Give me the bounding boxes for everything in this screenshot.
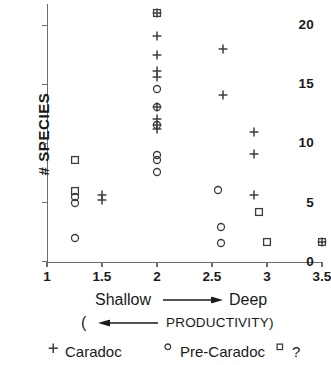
data-point-plus [152, 66, 162, 76]
x-tick-mark [46, 262, 47, 267]
chart-legend: CaradocPre-Caradoc? [0, 339, 329, 363]
data-point-plus [152, 124, 162, 134]
data-point-plus [152, 102, 162, 112]
caption-productivity: PRODUCTIVITY) [166, 316, 274, 330]
data-point-circle [153, 151, 162, 160]
data-point-square [70, 155, 79, 164]
data-point-circle [70, 192, 79, 201]
legend-marker-circle-icon [160, 343, 176, 359]
data-point-square [263, 237, 272, 246]
data-point-circle [70, 198, 79, 207]
legend-label: ? [292, 344, 300, 359]
data-point-circle [216, 223, 225, 232]
x-tick-label: 1 [43, 270, 51, 284]
arrow-right-icon [163, 296, 223, 303]
y-tick-label: 15 [299, 78, 314, 92]
data-point-plus [152, 114, 162, 124]
x-tick-label: 3 [263, 270, 271, 284]
data-point-plus [249, 190, 259, 200]
caption-shallow: Shallow [95, 292, 151, 308]
legend-item-square: ? [272, 339, 300, 363]
data-point-square [255, 207, 264, 216]
y-tick-label: 20 [299, 19, 314, 33]
data-point-plus [97, 190, 107, 200]
x-tick-label: 2 [153, 270, 161, 284]
data-point-plus [317, 237, 327, 247]
data-point-plus [152, 72, 162, 82]
data-point-circle [153, 167, 162, 176]
caption-open-paren: ( [81, 315, 86, 331]
y-tick-label: 5 [306, 196, 314, 210]
y-tick-mark [42, 84, 47, 85]
x-tick-mark [321, 262, 322, 267]
data-point-square [70, 186, 79, 195]
x-tick-label: 1.5 [93, 270, 112, 284]
data-point-plus [218, 44, 228, 54]
data-point-plus [249, 149, 259, 159]
data-point-circle [153, 85, 162, 94]
data-point-plus [152, 50, 162, 60]
data-point-circle [216, 238, 225, 247]
x-tick-label: 2.5 [203, 270, 222, 284]
data-point-square [318, 237, 327, 246]
data-point-circle [70, 233, 79, 242]
plot-area: # SPECIES 05101520 11.522.533.5 [47, 4, 322, 263]
data-point-plus [249, 127, 259, 137]
x-tick-mark [101, 262, 102, 267]
legend-item-circle: Pre-Caradoc [160, 339, 265, 363]
x-axis-line [47, 262, 322, 263]
legend-label: Caradoc [65, 344, 122, 359]
legend-item-plus: Caradoc [45, 339, 122, 363]
data-point-plus [218, 90, 228, 100]
data-point-circle [213, 185, 222, 194]
y-tick-label: 0 [306, 255, 314, 269]
y-tick-mark [42, 143, 47, 144]
caption-row-depth: Shallow Deep [0, 288, 329, 311]
y-tick-label: 10 [299, 137, 314, 151]
legend-marker-plus-icon [45, 343, 61, 359]
data-point-plus [152, 120, 162, 130]
x-tick-mark [266, 262, 267, 267]
x-tick-label: 3.5 [313, 270, 331, 284]
legend-marker-square-icon [272, 343, 288, 359]
data-point-plus [152, 31, 162, 41]
data-point-circle [153, 102, 162, 111]
x-tick-mark [156, 262, 157, 267]
legend-label: Pre-Caradoc [180, 344, 265, 359]
axis-caption: Shallow Deep ( PRODUCTIVITY) [0, 288, 329, 334]
caption-row-productivity: ( PRODUCTIVITY) [0, 311, 329, 334]
y-tick-mark [42, 202, 47, 203]
caption-deep: Deep [229, 292, 267, 308]
data-point-circle [153, 155, 162, 164]
data-point-circle [153, 120, 162, 129]
y-tick-mark [42, 25, 47, 26]
y-axis-title: # SPECIES [35, 93, 52, 176]
x-tick-mark [211, 262, 212, 267]
data-point-plus [97, 195, 107, 205]
data-point-square [153, 9, 162, 18]
data-point-plus [152, 8, 162, 18]
arrow-left-icon [92, 319, 158, 326]
